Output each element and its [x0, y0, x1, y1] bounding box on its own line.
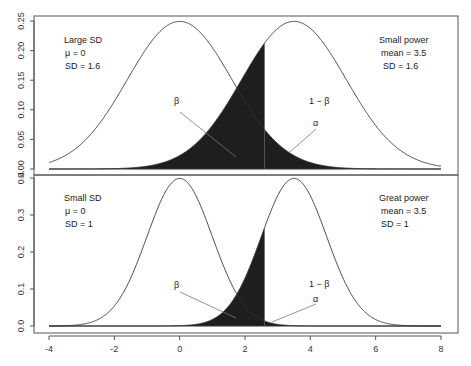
bottom-panel-small-sd: 0.00.10.20.30.4 -4-202468 Small SD μ = 0… [16, 172, 458, 354]
beta-shaded-area [49, 228, 265, 326]
x-tick-label: 8 [438, 344, 443, 354]
top-right-label-line2: mean = 3.5 [381, 48, 426, 58]
bottom-right-label-line2: mean = 3.5 [381, 206, 426, 216]
y-tick-label: 0.20 [16, 42, 26, 60]
top-one-minus-beta-label: 1 − β [309, 96, 329, 106]
top-left-label-line1: Large SD [64, 35, 103, 45]
top-left-label-line2: μ = 0 [65, 48, 85, 58]
bottom-beta-label: β [174, 280, 179, 290]
bottom-left-label-line3: SD = 1 [65, 219, 93, 229]
bottom-left-label-line1: Small SD [64, 193, 102, 203]
bottom-beta-arrow [180, 292, 236, 318]
x-tick-label: 0 [177, 344, 182, 354]
y-tick-label: 0.25 [16, 12, 26, 30]
y-tick-label: 0.05 [16, 131, 26, 149]
top-alpha-label: α [313, 118, 318, 128]
y-tick-label: 0.1 [16, 283, 26, 296]
y-tick-label: 0.0 [16, 320, 26, 333]
top-beta-label: β [174, 96, 179, 106]
x-tick-label: -2 [110, 344, 118, 354]
bottom-x-axis: -4-202468 [45, 336, 444, 354]
bottom-left-label-line2: μ = 0 [65, 206, 85, 216]
bottom-y-axis: 0.00.10.20.30.4 [16, 172, 34, 333]
bottom-alpha-arrow [272, 304, 316, 322]
top-right-label-line1: Small power [379, 35, 429, 45]
x-tick-label: 6 [373, 344, 378, 354]
alpha-shaded-area [265, 130, 441, 169]
top-alpha-arrow [290, 129, 316, 152]
y-tick-label: 0.4 [16, 172, 26, 185]
top-left-label-line3: SD = 1.6 [65, 61, 100, 71]
x-tick-label: -4 [45, 344, 53, 354]
y-tick-label: 0.10 [16, 101, 26, 119]
bottom-one-minus-beta-label: 1 − β [309, 279, 329, 289]
top-y-axis: 0.000.050.100.150.200.25 [16, 12, 34, 178]
y-tick-label: 0.2 [16, 246, 26, 259]
bottom-shaded-regions [49, 228, 441, 326]
bottom-right-label-line3: SD = 1 [381, 219, 409, 229]
x-tick-label: 4 [308, 344, 313, 354]
top-right-label-line3: SD = 1.6 [383, 61, 418, 71]
y-tick-label: 0.3 [16, 209, 26, 222]
power-analysis-chart: 0.000.050.100.150.200.25 Large SD μ = 0 … [0, 0, 471, 366]
x-tick-label: 2 [242, 344, 247, 354]
bottom-alpha-label: α [313, 294, 318, 304]
y-tick-label: 0.15 [16, 71, 26, 89]
top-panel-large-sd: 0.000.050.100.150.200.25 Large SD μ = 0 … [16, 12, 458, 178]
bottom-right-label-line1: Great power [379, 193, 429, 203]
